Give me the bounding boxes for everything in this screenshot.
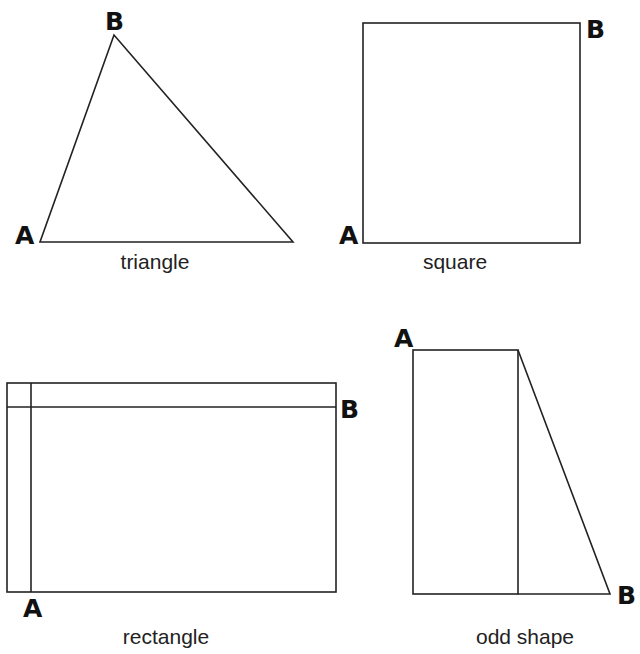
triangle-outline (40, 35, 293, 242)
triangle-point-a-label: A (15, 221, 35, 250)
square-point-a-label: A (339, 221, 359, 250)
triangle-caption: triangle (121, 250, 190, 273)
odd-shape-figure: A B odd shape (394, 324, 636, 648)
odd-shape-point-b-label: B (617, 581, 636, 610)
rectangle-caption: rectangle (123, 625, 209, 648)
odd-shape-caption: odd shape (476, 625, 574, 648)
odd-shape-point-a-label: A (394, 324, 414, 353)
shapes-diagram: B A triangle B A square B A rectangle A … (0, 0, 640, 654)
square-outline (363, 23, 580, 243)
odd-shape-rectangle-part (413, 350, 518, 594)
odd-shape-triangle-part (518, 350, 610, 594)
rectangle-point-a-label: A (23, 594, 43, 623)
square-point-b-label: B (586, 15, 605, 44)
square-caption: square (423, 250, 487, 273)
square-figure: B A square (339, 15, 605, 273)
triangle-point-b-label: B (105, 7, 124, 36)
rectangle-figure: B A rectangle (7, 383, 359, 648)
triangle-figure: B A triangle (15, 7, 293, 273)
rectangle-point-b-label: B (340, 395, 359, 424)
rectangle-outline (7, 383, 336, 592)
